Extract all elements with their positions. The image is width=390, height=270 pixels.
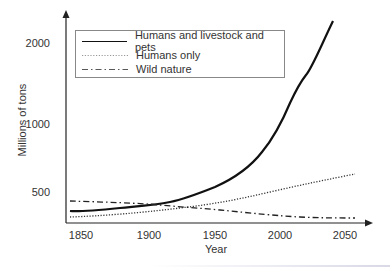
dash-dot-line-swatch-icon — [82, 68, 128, 70]
legend-label: Wild nature — [136, 63, 192, 75]
x-tick-2050: 2050 — [333, 229, 357, 241]
y-axis-arrow-icon — [63, 10, 70, 18]
dotted-line-swatch-icon — [82, 54, 128, 56]
solid-line-swatch-icon — [82, 40, 127, 42]
y-tick-500: 500 — [8, 186, 50, 198]
y-tick-2000: 2000 — [8, 37, 50, 49]
page-edge-shadow — [150, 265, 390, 267]
legend-item-humans-only: Humans only — [82, 48, 200, 62]
x-tick-1850: 1850 — [69, 229, 93, 241]
x-tick-2000: 2000 — [268, 229, 292, 241]
legend-item-humans-livestock-pets: Humans and livestock and pets — [82, 34, 284, 48]
y-axis-label: Millions of tons — [16, 84, 28, 157]
y-tick-1000: 1000 — [8, 118, 50, 130]
x-tick-1900: 1900 — [137, 229, 161, 241]
legend: Humans and livestock and pets Humans onl… — [75, 30, 285, 78]
x-tick-1950: 1950 — [203, 229, 227, 241]
series-humans-only — [70, 174, 355, 217]
legend-item-wild-nature: Wild nature — [82, 62, 192, 76]
x-axis-arrow-icon — [365, 220, 373, 227]
x-axis-label: Year — [205, 243, 227, 255]
legend-label: Humans only — [136, 49, 200, 61]
